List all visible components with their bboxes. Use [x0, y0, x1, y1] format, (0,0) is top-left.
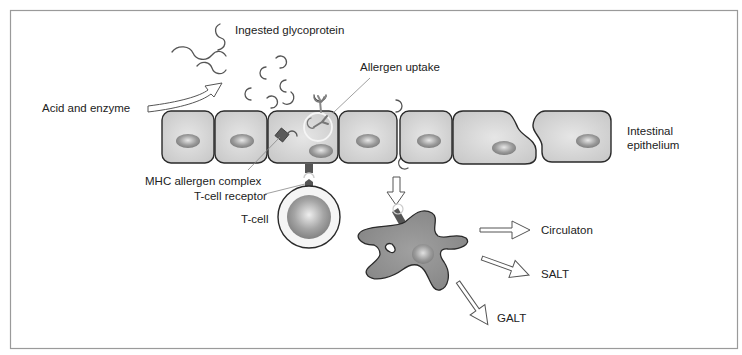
mhc-stalk-icon: [305, 164, 313, 173]
label-ingested-glycoprotein: Ingested glycoprotein: [235, 24, 344, 36]
t-cell-nucleus: [287, 195, 331, 239]
epithelial-cell: [533, 111, 611, 162]
label-allergen-uptake: Allergen uptake: [360, 61, 440, 73]
label-t-cell-receptor: T-cell receptor: [194, 190, 267, 202]
intestinal-epithelium: [162, 111, 611, 164]
label-intestinal: Intestinal: [627, 125, 673, 137]
label-epithelium: epithelium: [627, 139, 679, 151]
label-acid-and-enzyme: Acid and enzyme: [42, 102, 130, 114]
label-galt: GALT: [497, 312, 526, 324]
label-t-cell: T-cell: [241, 213, 268, 225]
diagram-canvas: Ingested glycoprotein Acid and enzyme Al…: [0, 0, 742, 355]
label-circulation: Circulaton: [541, 224, 593, 236]
label-mhc-allergen-complex: MHC allergen complex: [145, 175, 262, 187]
label-salt: SALT: [541, 268, 569, 280]
